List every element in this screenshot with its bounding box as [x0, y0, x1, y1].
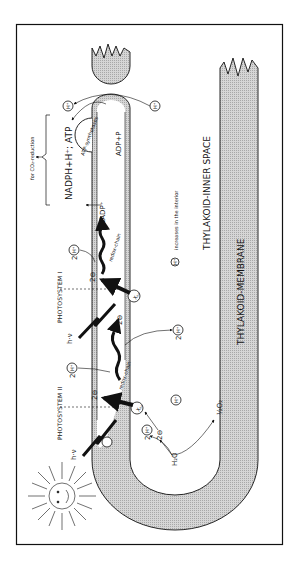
h-plus-3: H⁺: [71, 246, 77, 253]
nadph-atp-label: NADPH+H⁺; ATP: [64, 126, 74, 200]
proton-legend-text: increases in the interior: [173, 190, 179, 250]
photon-label-ps1: h·ν: [66, 333, 74, 344]
sun-icon: [28, 462, 96, 530]
co2-brace: [42, 115, 50, 205]
two-h-ps2: 2: [69, 374, 77, 378]
oxygen-label: ½O₂: [216, 400, 224, 415]
two-h-mid: 2: [175, 336, 183, 340]
h-plus-1: H⁺: [65, 102, 71, 109]
h-plus-5: H⁺: [175, 326, 181, 333]
electron-ps2: 2⊖: [91, 390, 99, 400]
two-h-ps1: 2: [71, 256, 79, 260]
membrane-fragment: [92, 44, 130, 84]
membrane-label: THYLAKOID-MEMBRANE: [236, 238, 246, 346]
thylakoid-diagram: ATP-synthetases THYLAKOID-INNER SPACE TH…: [0, 0, 300, 564]
h-plus-4: H⁺: [69, 364, 75, 371]
adp-label: ADP+P: [115, 132, 123, 157]
h-plus-legend: H⁺: [172, 258, 178, 265]
electron-ps1: 2⊖: [89, 272, 97, 282]
photosystem-2-label: PHOTOSYSTEM II: [56, 387, 63, 440]
h-plus-2: H⁺: [152, 102, 158, 109]
photosystem-1-label: PHOTOSYSTEM I: [56, 272, 63, 323]
h-plus-water: H⁺: [144, 426, 150, 433]
electron-water: 2⊖: [156, 430, 164, 440]
co2-reduction-label: for CO₂-reduction: [29, 137, 35, 180]
photon-label-ps2: h·ν: [70, 449, 78, 460]
h-plus-6: H⁺: [173, 396, 179, 403]
inner-space-label: THYLAKOID-INNER SPACE: [202, 136, 212, 251]
